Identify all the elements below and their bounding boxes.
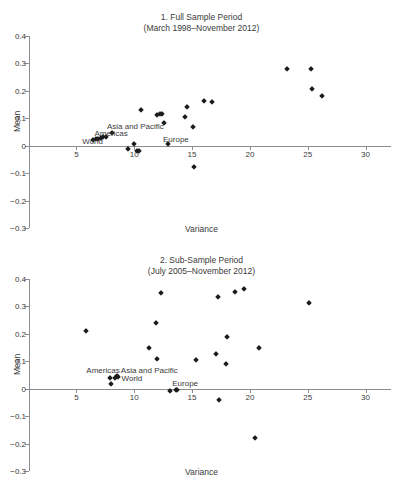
chart-title-1-subtitle: (March 1998–November 2012)	[0, 23, 403, 34]
x-tick-label: 20	[245, 150, 254, 159]
data-point	[182, 114, 188, 120]
plot-area-2: −0.3−0.2−0.100.10.20.30.451015202530Amer…	[29, 279, 391, 471]
annotation-world: World	[122, 373, 143, 382]
data-point	[252, 435, 258, 441]
data-point	[224, 334, 230, 340]
data-point	[308, 66, 314, 72]
y-tick-label: 0.4	[15, 275, 26, 284]
data-point	[319, 93, 325, 99]
x-tick-label: 30	[361, 150, 370, 159]
data-point	[215, 294, 221, 300]
chart-panel-sub-sample: 2. Sub-Sample Period (July 2005–November…	[0, 243, 403, 486]
chart-title-1-line1: 1. Full Sample Period	[0, 12, 403, 23]
y-tick-label: 0	[22, 141, 26, 150]
x-tick-label: 5	[74, 393, 78, 402]
x-tick-label: 15	[188, 150, 197, 159]
data-point	[201, 98, 207, 104]
y-tick-label: 0.2	[15, 86, 26, 95]
x-tick-label: 25	[303, 393, 312, 402]
annotation-americas: Americas	[86, 365, 119, 374]
x-tick-label: 10	[130, 393, 139, 402]
chart-title-2-subtitle: (July 2005–November 2012)	[0, 266, 403, 277]
data-point	[306, 300, 312, 306]
data-point	[83, 328, 89, 334]
data-point	[191, 164, 197, 170]
y-tick-label: −0.1	[10, 412, 26, 421]
x-axis-label-1: Variance	[0, 224, 403, 234]
data-point	[223, 361, 229, 367]
data-point	[232, 289, 238, 295]
y-tick-label: 0.3	[15, 59, 26, 68]
chart-title-2-line1: 2. Sub-Sample Period	[0, 255, 403, 266]
chart-panel-full-sample: 1. Full Sample Period (March 1998–Novemb…	[0, 0, 403, 243]
x-tick-label: 5	[74, 150, 78, 159]
figure-root: 1. Full Sample Period (March 1998–Novemb…	[0, 0, 403, 486]
annotation-world: World	[82, 136, 103, 145]
plot-area-1: −0.3−0.2−0.100.10.20.30.451015202530Asia…	[29, 36, 391, 228]
data-point	[153, 320, 159, 326]
data-point	[138, 107, 144, 113]
y-tick-label: 0.4	[15, 32, 26, 41]
x-tick-label: 30	[361, 393, 370, 402]
y-axis-line-1	[29, 36, 30, 228]
annotation-europe: Europe	[172, 378, 198, 387]
data-point	[146, 345, 152, 351]
x-axis-label-2: Variance	[0, 467, 403, 477]
y-tick-label: −0.2	[10, 196, 26, 205]
x-tick-label: 20	[245, 393, 254, 402]
x-axis-line-1	[29, 146, 391, 147]
data-point	[154, 356, 160, 362]
data-point	[158, 290, 164, 296]
y-tick-label: 0.1	[15, 357, 26, 366]
y-tick-label: 0.3	[15, 302, 26, 311]
x-axis-line-2	[29, 389, 391, 390]
y-tick-label: 0.2	[15, 329, 26, 338]
x-tick-label: 15	[188, 393, 197, 402]
data-point	[184, 104, 190, 110]
x-tick-label: 25	[303, 150, 312, 159]
annotation-europe: Europe	[163, 135, 189, 144]
data-point	[190, 124, 196, 130]
chart-title-2: 2. Sub-Sample Period (July 2005–November…	[0, 255, 403, 277]
data-point	[108, 381, 114, 387]
data-point	[209, 99, 215, 105]
data-point	[284, 66, 290, 72]
y-tick-label: 0	[22, 384, 26, 393]
data-point	[193, 357, 199, 363]
chart-title-1: 1. Full Sample Period (March 1998–Novemb…	[0, 12, 403, 34]
y-tick-label: 0.1	[15, 114, 26, 123]
data-point	[309, 86, 315, 92]
y-axis-line-2	[29, 279, 30, 471]
data-point	[241, 286, 247, 292]
y-tick-label: −0.2	[10, 439, 26, 448]
data-point	[256, 345, 262, 351]
data-point	[216, 397, 222, 403]
y-tick-label: −0.1	[10, 169, 26, 178]
data-point	[213, 351, 219, 357]
